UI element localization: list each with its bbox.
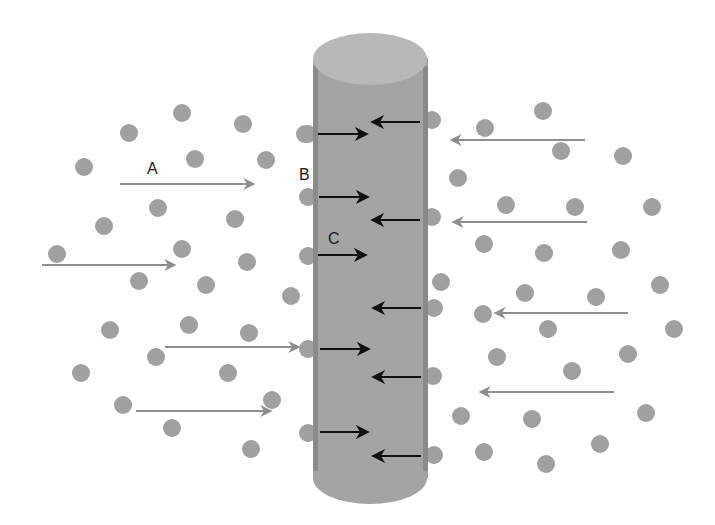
particle bbox=[173, 104, 191, 122]
particle bbox=[48, 245, 66, 263]
particle bbox=[637, 404, 655, 422]
particle bbox=[539, 320, 557, 338]
particle bbox=[257, 151, 275, 169]
particle bbox=[497, 196, 515, 214]
particle bbox=[488, 348, 506, 366]
particle bbox=[282, 287, 300, 305]
particle bbox=[130, 272, 148, 290]
particle bbox=[474, 305, 492, 323]
particle bbox=[263, 391, 281, 409]
particle bbox=[242, 440, 260, 458]
particle bbox=[219, 364, 237, 382]
particle bbox=[643, 198, 661, 216]
particle bbox=[534, 102, 552, 120]
particle bbox=[612, 241, 630, 259]
particle bbox=[234, 115, 252, 133]
cylinder-right-wall bbox=[423, 66, 428, 471]
label-b: B bbox=[299, 166, 310, 184]
particle bbox=[238, 253, 256, 271]
particle bbox=[665, 320, 683, 338]
cylinder-left-wall bbox=[313, 66, 318, 471]
particle bbox=[72, 364, 90, 382]
particle bbox=[619, 345, 637, 363]
cylinder-vessel bbox=[313, 33, 428, 504]
particle bbox=[197, 276, 215, 294]
particle bbox=[240, 324, 258, 342]
particle bbox=[120, 124, 138, 142]
particle bbox=[173, 240, 191, 258]
particle bbox=[614, 147, 632, 165]
particle bbox=[476, 119, 494, 137]
particle bbox=[591, 435, 609, 453]
particle bbox=[226, 210, 244, 228]
particle bbox=[587, 288, 605, 306]
diffusion-diagram bbox=[0, 0, 715, 525]
particle bbox=[149, 199, 167, 217]
particle bbox=[75, 158, 93, 176]
particle bbox=[147, 348, 165, 366]
particle bbox=[452, 407, 470, 425]
particle bbox=[651, 276, 669, 294]
particle bbox=[186, 150, 204, 168]
cylinder-top-cap bbox=[313, 33, 427, 85]
particle bbox=[563, 362, 581, 380]
particle bbox=[516, 284, 534, 302]
particle bbox=[475, 235, 493, 253]
particle bbox=[101, 321, 119, 339]
particle bbox=[537, 455, 555, 473]
particle bbox=[95, 217, 113, 235]
particle bbox=[475, 443, 493, 461]
label-c: C bbox=[328, 230, 340, 248]
particle bbox=[449, 169, 467, 187]
particle bbox=[535, 244, 553, 262]
particle bbox=[432, 273, 450, 291]
particle bbox=[114, 396, 132, 414]
particle bbox=[180, 316, 198, 334]
particle bbox=[566, 198, 584, 216]
label-a: A bbox=[147, 160, 158, 178]
particle bbox=[552, 142, 570, 160]
particle bbox=[163, 419, 181, 437]
particle bbox=[523, 410, 541, 428]
